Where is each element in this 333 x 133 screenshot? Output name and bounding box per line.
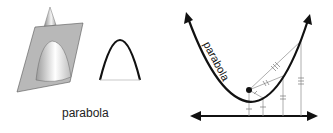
- diagram-canvas: parabola: [0, 0, 333, 133]
- curve-arrow-right-icon: [303, 14, 312, 25]
- focus-point: [246, 87, 252, 93]
- cone-tip-icon: [44, 7, 56, 27]
- arrow-right-icon: [307, 111, 318, 121]
- arrow-left-icon: [190, 111, 201, 121]
- parabola-arch-icon: [100, 40, 140, 80]
- parabola-diagram: parabola parabola: [0, 0, 333, 133]
- parabola-curve-group: [184, 12, 312, 102]
- left-caption: parabola: [62, 106, 109, 120]
- cone-plane-illustration: [17, 7, 83, 92]
- parabola-profile: [100, 40, 140, 80]
